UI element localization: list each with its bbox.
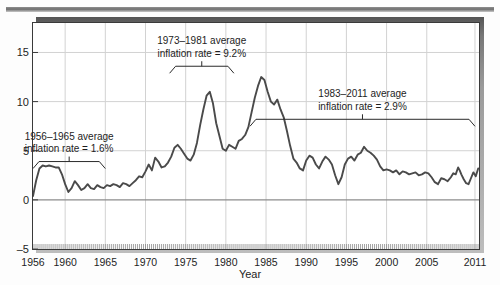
x-axis-minor-tick-ruler: [33, 244, 479, 249]
x-tick-label: 1956: [21, 256, 44, 268]
x-tick-label: 1990: [295, 256, 318, 268]
x-tick-label: 1960: [53, 256, 76, 268]
x-tick-label: 1965: [94, 256, 117, 268]
annotation-line-2: inflation rate = 2.9%: [262, 101, 462, 114]
annotation-line-1: 1983–2011 average: [262, 88, 462, 101]
x-tick-label: 2005: [415, 256, 438, 268]
x-tick-label: 2000: [375, 256, 398, 268]
annot-1983-2011: 1983–2011 averageinflation rate = 2.9%: [262, 88, 462, 113]
y-tick-label: 10: [17, 96, 29, 108]
annot-1956-1965: 1956–1965 averageinflation rate = 1.6%: [0, 131, 169, 156]
x-tick-label: 1975: [174, 256, 197, 268]
annotation-bracket: [170, 66, 234, 73]
inflation-rate-figure: –5051015 1956196019651970197519801985199…: [0, 0, 500, 285]
x-tick-label: 1970: [134, 256, 157, 268]
x-tick-label: 1995: [335, 256, 358, 268]
y-tick-label: –5: [17, 243, 29, 255]
y-tick-label: 0: [23, 194, 29, 206]
x-tick-label: 2011: [464, 256, 487, 268]
annotation-line-1: 1973–1981 average: [102, 35, 302, 48]
annot-1973-1981: 1973–1981 averageinflation rate = 9.2%: [102, 35, 302, 60]
page-top-band: [6, 7, 494, 12]
annotation-line-2: inflation rate = 1.6%: [0, 143, 169, 156]
x-axis-title: Year: [0, 268, 500, 280]
x-tick-label: 1985: [254, 256, 277, 268]
annotation-line-1: 1956–1965 average: [0, 131, 169, 144]
y-tick-label: 15: [17, 46, 29, 58]
annotation-line-2: inflation rate = 9.2%: [102, 48, 302, 61]
x-tick-label: 1980: [214, 256, 237, 268]
